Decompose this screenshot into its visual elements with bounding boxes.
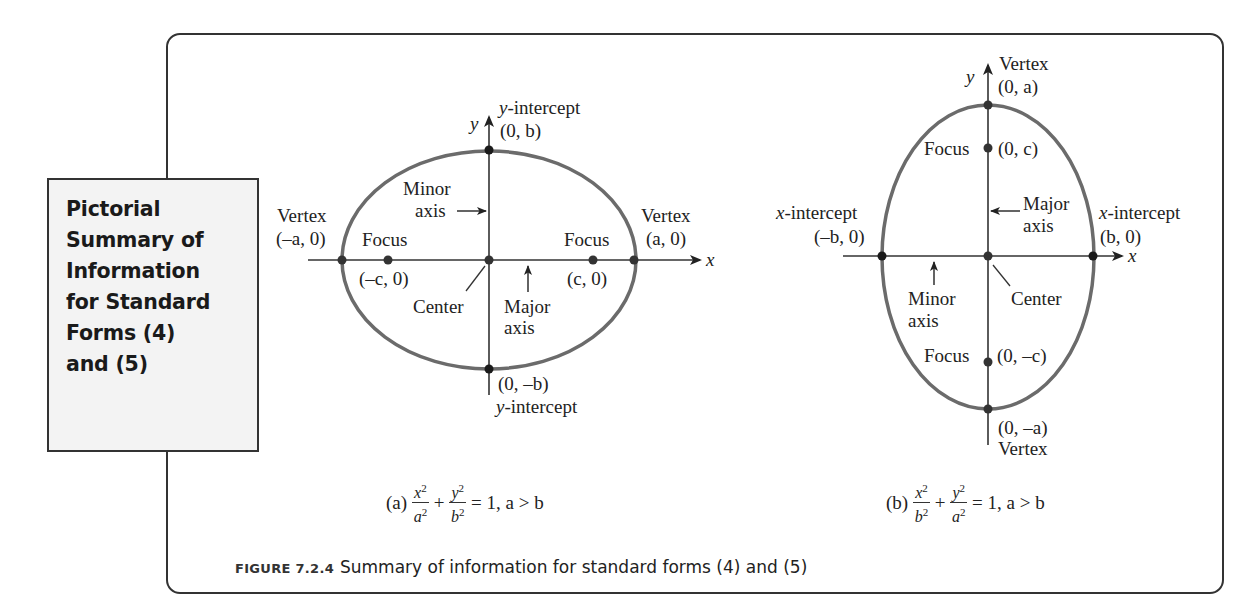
exponent: 2	[459, 506, 465, 518]
point-focus-top	[984, 144, 993, 153]
label-x-intercept-left-b: x-intercept	[775, 202, 858, 223]
major-axis-label-b-1: Major	[1023, 193, 1070, 214]
point-center-b	[984, 252, 993, 261]
minor-axis-label-a-1: Minor	[403, 178, 451, 199]
point-x-intercept-left	[878, 252, 887, 261]
term1-den-a: a	[414, 509, 422, 526]
vertex-bottom-coord-b: (0, –a)	[998, 417, 1048, 439]
vertex-top-coord-b: (0, a)	[998, 76, 1038, 98]
equation-a-term2: y2 b2	[449, 480, 466, 526]
center-label-b: Center	[1011, 288, 1062, 309]
point-y-intercept-bottom	[485, 365, 494, 374]
vertex-left-title-a: Vertex	[277, 205, 327, 226]
y-axis-label-b: y	[964, 66, 975, 87]
center-leader-a	[466, 266, 485, 291]
vertex-bottom-title-b: Vertex	[998, 438, 1048, 459]
term2-den-b: a	[952, 509, 960, 526]
plus-sign-b: +	[935, 492, 946, 514]
point-vertex-left	[338, 256, 347, 265]
focus-bottom-title-b: Focus	[924, 345, 969, 366]
focus-bottom-coord-b: (0, –c)	[997, 345, 1047, 367]
coord-x-intercept-right-b: (b, 0)	[1100, 226, 1141, 248]
equation-b-term1: x2 b2	[913, 480, 930, 526]
caption-text: Summary of information for standard form…	[340, 557, 807, 577]
exponent: 2	[459, 482, 465, 494]
equation-b-term2: y2 a2	[950, 480, 967, 526]
minor-axis-label-b-1: Minor	[908, 288, 956, 309]
exponent: 2	[960, 506, 966, 518]
focus-left-title-a: Focus	[362, 229, 407, 250]
figure-caption: FIGURE 7.2.4Summary of information for s…	[235, 557, 807, 577]
equation-b-suffix: = 1, a > b	[972, 492, 1045, 514]
major-axis-label-b-2: axis	[1023, 215, 1054, 236]
term2-num-b: y	[952, 484, 959, 501]
term2-den-a: b	[451, 509, 459, 526]
equation-a: (a) x2 a2 + y2 b2 = 1, a > b	[386, 480, 544, 526]
focus-right-title-a: Focus	[564, 229, 609, 250]
coord-y-intercept-top-a: (0, b)	[500, 120, 541, 142]
point-y-intercept-top	[485, 146, 494, 155]
term1-den-b: b	[915, 509, 923, 526]
vertex-right-title-a: Vertex	[641, 205, 691, 226]
exponent: 2	[923, 506, 929, 518]
vertex-left-coord-a: (–a, 0)	[276, 228, 326, 250]
x-axis-label-b: x	[1127, 245, 1137, 266]
coord-y-intercept-bottom-a: (0, –b)	[498, 373, 549, 395]
point-center-a	[485, 256, 494, 265]
equation-a-suffix: = 1, a > b	[471, 492, 544, 514]
label-y-intercept-top-a: y-intercept	[497, 97, 581, 118]
focus-top-title-b: Focus	[924, 138, 969, 159]
minor-axis-label-b-2: axis	[908, 310, 939, 331]
major-axis-label-a-2: axis	[504, 317, 535, 338]
point-focus-bottom	[984, 358, 993, 367]
point-focus-right	[589, 256, 598, 265]
focus-right-coord-a: (c, 0)	[567, 268, 607, 290]
equation-b-prefix: (b)	[886, 492, 908, 514]
label-x-intercept-right-b: x-intercept	[1098, 202, 1181, 223]
major-axis-label-a-1: Major	[504, 296, 551, 317]
term2-num-a: y	[451, 484, 458, 501]
focus-top-coord-b: (0, c)	[998, 138, 1038, 160]
exponent: 2	[422, 506, 428, 518]
point-vertex-right	[630, 256, 639, 265]
plus-sign-a: +	[434, 492, 445, 514]
coord-x-intercept-left-b: (–b, 0)	[814, 226, 865, 248]
vertex-top-title-b: Vertex	[999, 53, 1049, 74]
exponent: 2	[960, 482, 966, 494]
label-y-intercept-bottom-a: y-intercept	[494, 396, 578, 417]
center-label-a: Center	[413, 296, 464, 317]
focus-left-coord-a: (–c, 0)	[359, 268, 409, 290]
equation-a-term1: x2 a2	[412, 480, 429, 526]
diagram-a-horizontal-ellipse: x y y-intercept (0, b) Minor axis Vertex…	[276, 97, 715, 417]
y-axis-label-a: y	[468, 113, 479, 134]
diagram-b-vertical-ellipse: x y Vertex (0, a) Focus (0, c) Major axi…	[775, 53, 1181, 459]
equation-b: (b) x2 b2 + y2 a2 = 1, a > b	[886, 480, 1045, 526]
x-axis-label-a: x	[705, 249, 715, 270]
figure-number: FIGURE 7.2.4	[235, 561, 334, 576]
exponent: 2	[922, 482, 928, 494]
center-leader-b	[993, 265, 1010, 286]
equation-a-prefix: (a)	[386, 492, 407, 514]
point-vertex-bottom	[984, 405, 993, 414]
point-vertex-top	[984, 101, 993, 110]
point-focus-left	[384, 256, 393, 265]
minor-axis-label-a-2: axis	[415, 200, 446, 221]
exponent: 2	[421, 482, 427, 494]
point-x-intercept-right	[1089, 252, 1098, 261]
ellipse-diagrams: x y y-intercept (0, b) Minor axis Vertex…	[0, 0, 1258, 612]
vertex-right-coord-a: (a, 0)	[646, 228, 686, 250]
